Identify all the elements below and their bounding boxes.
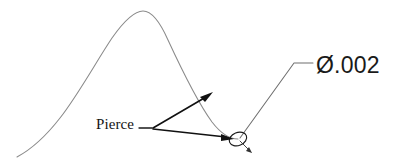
pierce-arrow-upper-head: [200, 92, 213, 102]
pierce-arrow-lower-shaft: [153, 129, 226, 137]
technical-drawing-figure: Pierce Ø.002: [0, 0, 396, 166]
figure-canvas: [0, 0, 396, 166]
pierce-arrow-upper-shaft: [153, 97, 206, 128]
tolerance-leader-line: [240, 63, 313, 138]
pierce-label: Pierce: [96, 116, 134, 133]
diameter-tolerance-label: Ø.002: [316, 52, 380, 79]
